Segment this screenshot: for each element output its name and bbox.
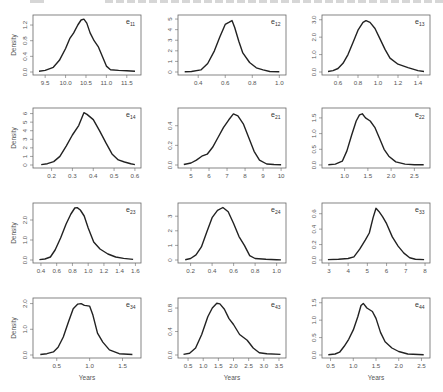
density-curve [328, 21, 424, 72]
x-tick-label: 1.0 [199, 362, 208, 369]
plot-frame [322, 203, 430, 263]
panel-title: e21 [271, 111, 281, 120]
x-tick-label: 0.5 [184, 362, 193, 369]
density-plot-grid: 9.510.010.511.011.50.00.40.81.2e11Densit… [0, 0, 443, 392]
y-tick-label: 0.0 [21, 67, 28, 76]
x-tick-label: 0.4 [208, 267, 217, 274]
panel-title: e33 [415, 206, 425, 215]
x-tick-label: 0.5 [326, 362, 335, 369]
x-tick-label: 1.0 [84, 267, 93, 274]
x-tick-label: 0.6 [131, 172, 140, 179]
x-tick-label: 3.0 [260, 362, 269, 369]
y-tick-label: 0.4 [166, 327, 173, 336]
panel-e12: 0.40.60.81.0012345e12 [166, 15, 286, 86]
x-tick-label: 2.5 [410, 172, 419, 179]
panel-title: e24 [271, 206, 281, 215]
x-tick-label: 0.6 [334, 79, 343, 86]
density-curve [328, 114, 423, 165]
y-axis-label: Density [10, 126, 18, 148]
x-tick-label: 1.2 [100, 267, 109, 274]
x-tick-label: 1.5 [372, 362, 381, 369]
panel-title: e11 [126, 18, 135, 27]
x-tick-label: 5 [189, 172, 193, 179]
x-tick-label: 0.8 [68, 267, 77, 274]
plot-frame [33, 108, 141, 168]
panel-e23: 0.40.60.81.01.21.41.60.01.02.0e23Density [10, 203, 141, 274]
panel-title: e13 [415, 18, 425, 27]
x-tick-label: 0.6 [52, 267, 61, 274]
y-tick-label: 1.5 [310, 113, 317, 122]
y-tick-label: 3 [166, 38, 173, 42]
y-tick-label: 2 [166, 229, 173, 233]
y-tick-label: 0.0 [310, 255, 317, 264]
x-tick-label: 0.4 [89, 172, 98, 179]
x-axis-label: Years [368, 374, 385, 381]
x-tick-label: 1.0 [272, 267, 281, 274]
y-tick-label: 1 [166, 59, 173, 63]
x-tick-label: 7 [404, 267, 408, 274]
x-tick-label: 1.5 [118, 362, 127, 369]
y-tick-label: 0.4 [166, 121, 173, 130]
plot-frame [178, 15, 286, 75]
x-tick-label: 1.0 [275, 79, 284, 86]
panel-e13: 0.60.81.01.21.40.01.02.03.0e13 [310, 15, 430, 86]
panel-title: e22 [415, 111, 425, 120]
y-tick-label: 1 [166, 243, 173, 247]
x-tick-label: 8 [243, 172, 247, 179]
x-tick-label: 0.8 [354, 79, 363, 86]
y-tick-label: 0.5 [310, 144, 317, 153]
y-tick-label: 0 [21, 163, 28, 167]
x-tick-label: 0.8 [248, 79, 257, 86]
y-tick-label: 2.0 [21, 299, 28, 308]
panel-title: e34 [126, 301, 136, 310]
y-tick-label: 2 [166, 49, 173, 53]
panel-e33: 3456780.00.20.40.6e33 [310, 203, 430, 274]
y-tick-label: 0.6 [310, 209, 317, 218]
panel-e14: 0.20.30.40.50.60123456e14Density [10, 108, 141, 179]
x-tick-label: 2.5 [244, 362, 253, 369]
y-tick-label: 1.0 [310, 129, 317, 138]
x-tick-label: 2.0 [394, 362, 403, 369]
x-tick-label: 1.4 [414, 79, 423, 86]
plot-frame [33, 203, 141, 263]
panel-e24: 0.20.40.60.81.00123e24 [166, 203, 286, 274]
y-axis-label: Density [10, 33, 18, 55]
x-tick-label: 0.4 [194, 79, 203, 86]
panel-e44: 0.51.01.52.02.50.00.51.01.5e44Years [310, 298, 430, 381]
x-tick-label: 10 [278, 172, 285, 179]
x-tick-label: 1.6 [131, 267, 140, 274]
y-axis-label: Density [10, 316, 18, 338]
x-tick-label: 9.5 [41, 79, 50, 86]
x-tick-label: 2.0 [387, 172, 396, 179]
y-tick-label: 0.4 [310, 224, 317, 233]
y-tick-label: 1 [21, 154, 28, 158]
plot-frame [322, 108, 430, 168]
x-tick-label: 1.5 [364, 172, 373, 179]
y-tick-label: 4 [166, 27, 173, 31]
x-tick-label: 0.4 [37, 267, 46, 274]
x-tick-label: 1.4 [115, 267, 124, 274]
y-tick-label: 0.5 [310, 333, 317, 342]
x-tick-label: 0.6 [221, 79, 230, 86]
x-tick-label: 1.2 [394, 79, 403, 86]
panel-e11: 9.510.010.511.011.50.00.40.81.2e11Densit… [10, 15, 141, 86]
panel-e21: 56789100.00.20.4e21 [166, 108, 286, 179]
x-tick-label: 6 [207, 172, 211, 179]
panel-e22: 1.01.52.02.50.00.51.01.5e22 [310, 108, 430, 179]
panel-title: e23 [126, 206, 136, 215]
x-tick-label: 11.0 [101, 79, 113, 86]
x-tick-label: 1.0 [374, 79, 383, 86]
x-tick-label: 1.0 [349, 362, 358, 369]
x-axis-label: Years [79, 374, 96, 381]
y-tick-label: 0.0 [310, 350, 317, 359]
plot-frame [33, 298, 141, 358]
panel-e34: 0.51.01.50.01.02.0e34DensityYears [10, 298, 141, 381]
x-tick-label: 10.0 [60, 79, 73, 86]
x-tick-label: 0.5 [110, 172, 119, 179]
x-tick-label: 6 [385, 267, 389, 274]
y-tick-label: 0.0 [310, 67, 317, 76]
x-tick-label: 0.8 [251, 267, 260, 274]
y-tick-label: 0.2 [166, 141, 173, 150]
plot-frame [322, 15, 430, 75]
x-tick-label: 1.0 [85, 362, 94, 369]
